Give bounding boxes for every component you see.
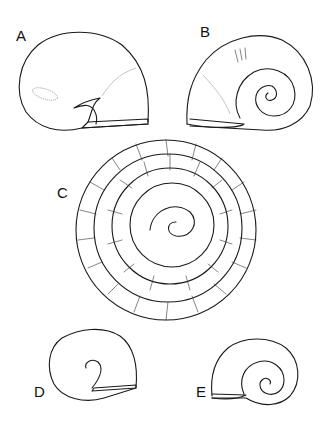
shell-illustrations	[0, 0, 332, 423]
shell-d	[49, 329, 136, 400]
shell-b	[187, 36, 313, 131]
spiral-c	[76, 140, 256, 320]
shell-a	[19, 32, 148, 130]
shell-e	[212, 339, 298, 405]
